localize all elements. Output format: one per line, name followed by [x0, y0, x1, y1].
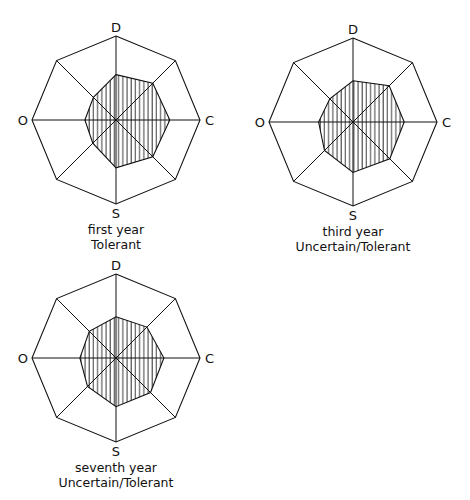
radar-figure: D C S O first year Tolerant D C S O thir… — [0, 0, 470, 500]
chart-subtitle: Tolerant — [90, 237, 141, 252]
axis-label-d: D — [111, 20, 121, 35]
spokes — [269, 38, 437, 206]
axis-label-s: S — [112, 206, 120, 221]
axis-label-c: C — [205, 351, 214, 366]
axis-label-c: C — [442, 115, 451, 130]
axis-label-d: D — [348, 22, 358, 37]
chart-title: seventh year — [75, 460, 158, 475]
axis-label-o: O — [255, 115, 265, 130]
axis-label-c: C — [205, 113, 214, 128]
axis-label-o: O — [18, 113, 28, 128]
spokes — [32, 274, 200, 442]
chart-title: third year — [322, 224, 384, 239]
spokes — [32, 36, 200, 204]
radar-chart-first-year: D C S O first year Tolerant — [18, 20, 214, 252]
shaded-profile — [85, 75, 170, 168]
radar-chart-seventh-year: D C S O seventh year Uncertain/Tolerant — [18, 258, 214, 490]
axis-label-o: O — [18, 351, 28, 366]
chart-title: first year — [88, 222, 145, 237]
chart-subtitle: Uncertain/Tolerant — [59, 475, 174, 490]
chart-subtitle: Uncertain/Tolerant — [296, 239, 411, 254]
axis-label-s: S — [349, 208, 357, 223]
radar-chart-third-year: D C S O third year Uncertain/Tolerant — [255, 22, 451, 254]
axis-label-s: S — [112, 444, 120, 459]
shaded-profile — [319, 81, 405, 173]
axis-label-d: D — [111, 258, 121, 273]
